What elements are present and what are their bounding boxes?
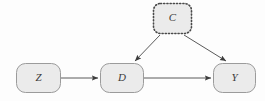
node-c-latent[interactable]: C (154, 4, 192, 34)
node-z-label: Z (35, 71, 42, 83)
node-d[interactable]: D (101, 64, 144, 93)
node-z[interactable]: Z (17, 64, 61, 93)
node-y[interactable]: Y (214, 64, 256, 93)
causal-diagram-canvas: Z D Y C (0, 0, 265, 101)
edge-c-to-y (184, 35, 226, 61)
edge-c-to-d (135, 35, 160, 61)
causal-diagram-svg: Z D Y C (0, 0, 265, 101)
node-d-label: D (117, 71, 126, 83)
node-c-label: C (169, 11, 177, 23)
